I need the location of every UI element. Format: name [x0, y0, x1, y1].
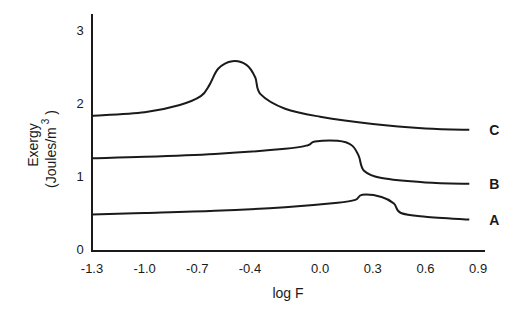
x-tick-label: 0.3 [364, 261, 382, 276]
y-tick-labels: 0123 [76, 23, 83, 257]
curves [92, 61, 469, 220]
x-tick-label: -0.4 [239, 261, 261, 276]
x-axis-title: log F [272, 285, 303, 301]
series-label-a: A [489, 212, 499, 228]
series-label-b: B [489, 176, 499, 192]
y-axis-label: Exergy [25, 123, 41, 167]
x-tick-label: -1.0 [133, 261, 155, 276]
curve-a [92, 195, 469, 220]
curve-c [92, 61, 469, 130]
y-axis-units: (Joules/m3) [40, 110, 59, 188]
x-tick-label: -1.3 [81, 261, 103, 276]
x-tick-label: 0.9 [469, 261, 487, 276]
axes [91, 14, 485, 251]
x-tick-label: 0.6 [416, 261, 434, 276]
x-tick-label: 0.0 [311, 261, 329, 276]
y-tick-label: 2 [76, 96, 83, 111]
series-labels: CBA [489, 122, 499, 228]
curve-b [92, 141, 469, 184]
y-tick-label: 0 [76, 242, 83, 257]
x-tick-label: -0.7 [186, 261, 208, 276]
series-label-c: C [489, 122, 499, 138]
y-axis-title: Exergy (Joules/m3) [25, 110, 59, 188]
y-tick-label: 3 [76, 23, 83, 38]
exergy-chart: -1.3-1.0-0.7-0.40.00.30.60.9 0123 CBA lo… [0, 0, 517, 317]
x-tick-labels: -1.3-1.0-0.7-0.40.00.30.60.9 [81, 261, 487, 276]
y-tick-label: 1 [76, 169, 83, 184]
